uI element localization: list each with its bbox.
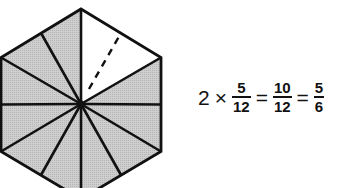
- fraction-equation: 2 × 5 12 = 10 12 = 5 6: [198, 80, 324, 114]
- fraction-5-6: 5 6: [314, 80, 324, 114]
- fraction-5-12: 5 12: [232, 80, 251, 114]
- multiplier: 2: [198, 87, 210, 108]
- denominator: 12: [232, 98, 251, 114]
- denominator: 12: [273, 98, 292, 114]
- times-sign: ×: [215, 87, 227, 108]
- equals-sign: =: [256, 87, 268, 108]
- center-point: [78, 101, 85, 108]
- numerator: 5: [314, 80, 324, 96]
- fraction-10-12: 10 12: [273, 80, 292, 114]
- equals-sign: =: [297, 87, 309, 108]
- hexagon-fraction-diagram: [0, 0, 170, 188]
- denominator: 6: [314, 98, 324, 114]
- numerator: 10: [273, 80, 292, 96]
- numerator: 5: [236, 80, 246, 96]
